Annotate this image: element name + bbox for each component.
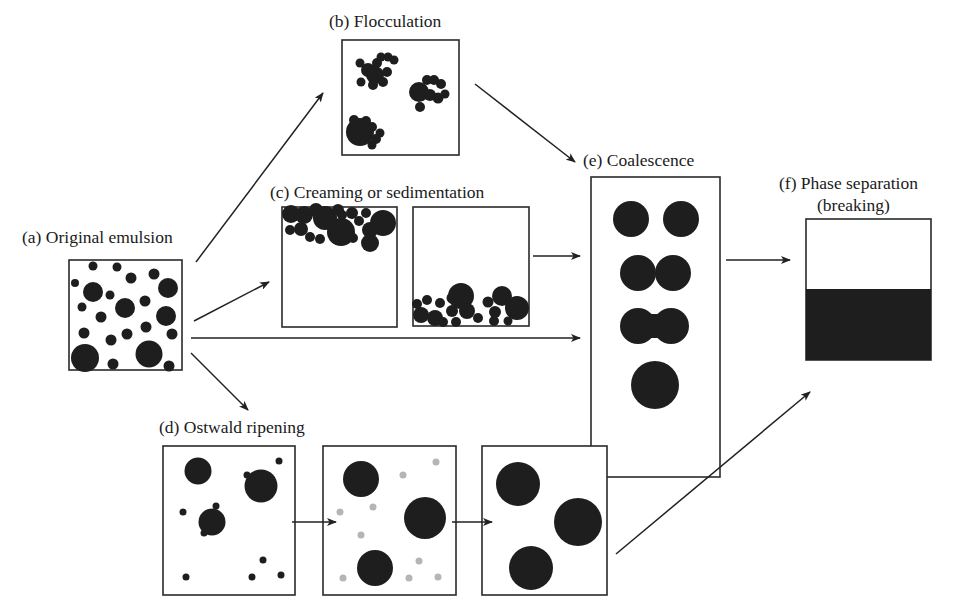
label-creaming-sedimentation: (c) Creaming or sedimentation [270, 184, 484, 202]
label-original-emulsion: (a) Original emulsion [22, 229, 173, 247]
emulsion-diagram [0, 0, 962, 611]
arrow-b-to-e [475, 84, 575, 162]
label-coalescence: (e) Coalescence [583, 152, 694, 170]
label-breaking: (breaking) [817, 197, 890, 215]
flocculation-box [342, 40, 459, 155]
creaming-box [282, 203, 397, 327]
ostwald-ripening-box-2 [323, 446, 456, 595]
original-emulsion-box [69, 260, 182, 372]
label-flocculation: (b) Flocculation [329, 13, 441, 31]
ostwald-ripening-box-1 [163, 446, 295, 595]
ostwald-ripening-box-3 [482, 446, 607, 595]
arrow-a-to-c [194, 282, 269, 321]
phase-separation-box [806, 219, 931, 360]
label-ostwald-ripening: (d) Ostwald ripening [159, 419, 305, 437]
label-phase-separation: (f) Phase separation [779, 175, 918, 193]
sedimentation-box [412, 207, 529, 327]
arrow-a-to-d [191, 353, 248, 410]
coalescence-box [591, 177, 720, 477]
